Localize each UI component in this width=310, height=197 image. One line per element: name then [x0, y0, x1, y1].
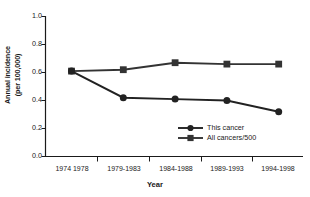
- data-point: [223, 97, 230, 104]
- x-tick-label: 1979-1983: [98, 165, 150, 173]
- data-point: [68, 68, 75, 75]
- legend-label-this-cancer: This cancer: [207, 124, 244, 132]
- chart-container: Annual incidence (per 100,000) 1.0 0.8 0…: [0, 0, 310, 197]
- data-point: [275, 108, 282, 115]
- data-point: [172, 96, 179, 103]
- series-markers-all-cancers: [68, 59, 282, 74]
- data-point: [172, 59, 179, 66]
- x-axis-ticks: [98, 157, 253, 162]
- axis-lines: [45, 16, 303, 157]
- legend-swatches: [178, 125, 203, 141]
- series-line-this-cancer: [72, 71, 279, 112]
- legend-square-marker-icon: [187, 135, 193, 141]
- x-tick-label: 1989-1993: [201, 165, 253, 173]
- legend-label-all-cancers: All cancers/500: [207, 134, 256, 142]
- legend-circle-marker-icon: [187, 125, 193, 131]
- series-markers-this-cancer: [68, 68, 282, 116]
- x-tick-label: 1974 1978: [46, 165, 98, 173]
- data-point: [120, 66, 127, 73]
- x-tick-label: 1984-1988: [150, 165, 202, 173]
- x-axis-title: Year: [0, 180, 310, 189]
- data-point: [120, 94, 127, 101]
- data-point: [275, 61, 282, 68]
- data-point: [224, 61, 231, 68]
- x-tick-label: 1994-1998: [252, 165, 304, 173]
